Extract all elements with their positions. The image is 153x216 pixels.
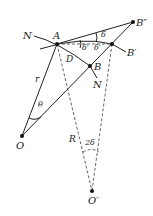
label-R: R [68, 134, 76, 144]
point-b [88, 64, 92, 68]
label-o: O [16, 140, 24, 151]
label-delta-prime-2: δ′ [94, 43, 101, 52]
label-b-double-prime: B″ [135, 17, 147, 28]
label-two-delta: 2δ [84, 138, 95, 147]
delta-prime-arc [80, 40, 81, 48]
label-theta: θ [38, 100, 43, 109]
label-n-bottom: N [92, 79, 103, 90]
label-r: r [35, 74, 40, 84]
line-o-a [22, 44, 57, 136]
label-n-top: N [22, 30, 33, 41]
dashed-a-oprime [57, 44, 92, 191]
geometry-diagram: A B B′ B″ D N N O O′ r R θ δ δ′ δ′ 2δ [0, 0, 153, 216]
two-delta-arc [83, 150, 99, 153]
label-delta-prime-1: δ′ [82, 43, 89, 52]
label-b-prime: B′ [126, 47, 137, 58]
point-a [55, 42, 59, 46]
label-a: A [52, 30, 60, 41]
point-o [20, 134, 24, 138]
label-b: B [93, 61, 101, 72]
label-delta: δ [101, 30, 106, 39]
point-b-double-prime [131, 20, 135, 24]
label-d: D [65, 54, 73, 64]
delta-arc-1 [96, 33, 97, 42]
point-b-prime [110, 42, 114, 46]
point-o-prime [90, 189, 94, 193]
label-o-prime: O′ [88, 195, 99, 206]
